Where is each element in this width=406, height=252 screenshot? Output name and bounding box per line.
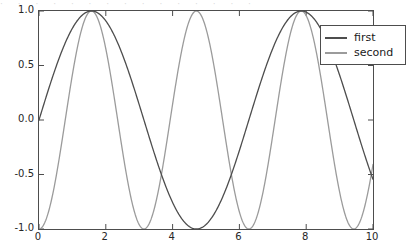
x-tick-label: 4 xyxy=(157,232,187,242)
legend-label: second xyxy=(354,47,393,58)
top-edge-artifact: · · · · · · · · · · · · · · · xyxy=(0,0,384,5)
x-axis-tick-labels: 0 2 4 6 8 10 xyxy=(38,232,372,246)
y-axis-tick-labels: 1.0 0.5 0.0 -0.5 -1.0 xyxy=(0,10,34,228)
y-tick-label: 0.0 xyxy=(0,114,34,124)
legend-label: first xyxy=(354,32,376,43)
x-tick-label: 2 xyxy=(90,232,120,242)
x-tick-label: 0 xyxy=(23,232,53,242)
legend-line-swatch-second xyxy=(325,52,347,54)
legend-entry-first: first xyxy=(325,30,400,45)
plot-axes: first second xyxy=(38,10,374,230)
legend-entry-second: second xyxy=(325,45,400,60)
y-tick-label: -0.5 xyxy=(0,169,34,179)
x-tick-label: 8 xyxy=(290,232,320,242)
y-tick-label: 0.5 xyxy=(0,60,34,70)
y-tick-label: 1.0 xyxy=(0,5,34,15)
legend-line-swatch-first xyxy=(325,37,347,39)
legend-box: first second xyxy=(320,25,406,65)
x-tick-label: 10 xyxy=(357,232,387,242)
x-tick-label: 6 xyxy=(223,232,253,242)
